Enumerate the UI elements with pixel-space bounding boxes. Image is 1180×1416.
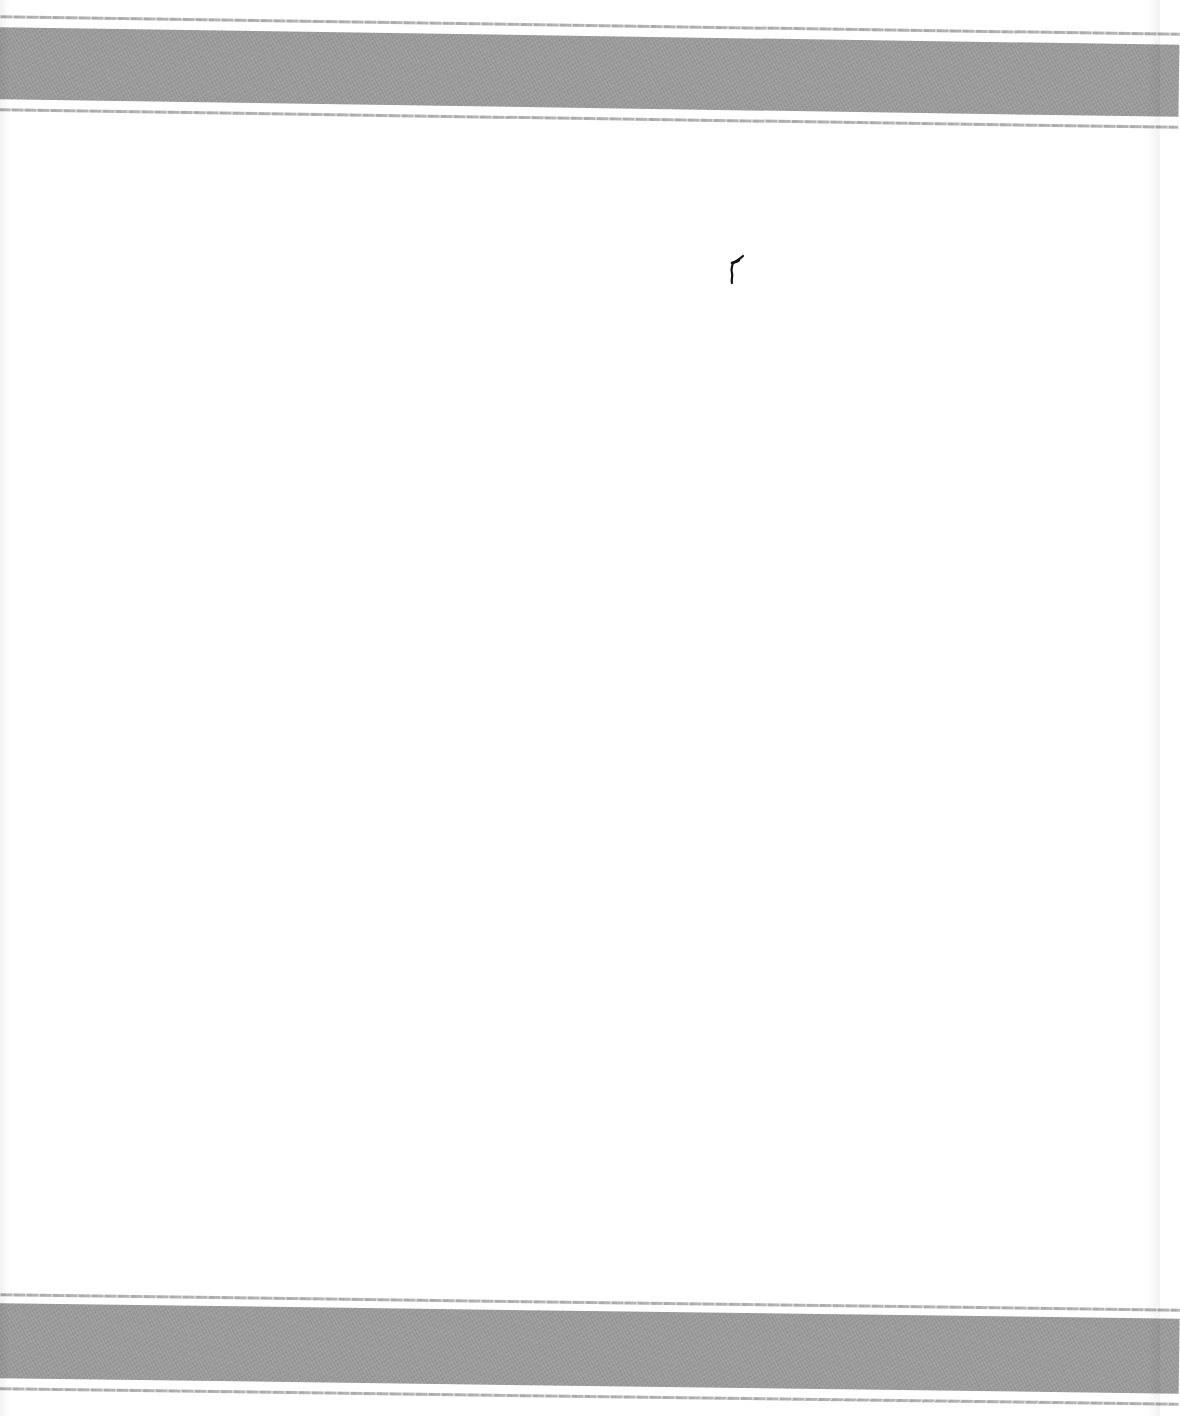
top-stripe-group [0, 0, 1180, 158]
thread-mark-icon [726, 254, 748, 286]
bottom-stripe-band [0, 1303, 1180, 1394]
right-edge-shadow [1146, 0, 1160, 1416]
bottom-stripe-group [0, 1280, 1180, 1416]
left-edge-shadow [0, 0, 10, 1416]
top-stripe-band [0, 27, 1179, 117]
